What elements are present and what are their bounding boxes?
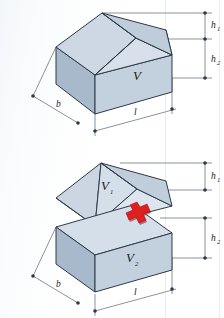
- top-solid-body: [56, 13, 172, 114]
- svg-text:2: 2: [217, 59, 221, 66]
- svg-text:1: 1: [110, 188, 113, 195]
- svg-text:h: h: [211, 233, 216, 243]
- top-h1-label: h 1: [211, 20, 220, 32]
- figure-page: ...icht Verfahren: [0, 0, 224, 318]
- svg-text:h: h: [211, 54, 216, 64]
- svg-text:1: 1: [217, 25, 220, 32]
- bottom-length-label: l: [134, 287, 137, 297]
- bottom-diagram: V 1 V 2 b l h 1 h 2: [0, 158, 224, 318]
- svg-text:h: h: [211, 20, 216, 30]
- bottom-depth-label: b: [56, 279, 61, 289]
- top-depth-label: b: [56, 99, 61, 109]
- bottom-h2-label: h 2: [211, 233, 221, 245]
- top-length-label: l: [134, 107, 137, 117]
- top-h2-label: h 2: [211, 54, 221, 66]
- svg-text:1: 1: [217, 176, 220, 183]
- cuboid-solid-v2: [56, 205, 172, 292]
- svg-text:h: h: [211, 171, 216, 181]
- top-diagram: V b l h 1 h 2: [0, 0, 224, 150]
- bottom-h1-label: h 1: [211, 171, 220, 183]
- svg-text:2: 2: [217, 238, 221, 245]
